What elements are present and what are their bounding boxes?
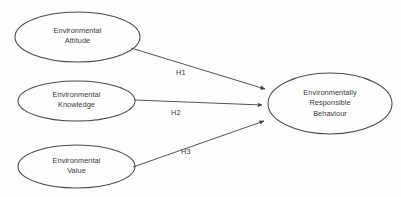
edge-arrow-h1 <box>131 48 265 89</box>
diagram-graphics <box>0 0 401 197</box>
edge-label-h2: H2 <box>171 108 181 117</box>
edge-arrow-h3 <box>133 121 264 167</box>
node-ellipse-environmentally-responsible-behaviour <box>268 73 392 134</box>
edge-label-h3: H3 <box>181 147 191 156</box>
edge-arrow-h2 <box>135 100 262 105</box>
node-ellipse-environmental-value <box>18 145 135 188</box>
edge-label-h1: H1 <box>176 68 186 77</box>
node-ellipse-environmental-knowledge <box>18 81 135 121</box>
node-ellipse-environmental-attitude <box>15 12 140 62</box>
diagram-canvas: Environmental Attitude Environmental Kno… <box>0 0 401 197</box>
